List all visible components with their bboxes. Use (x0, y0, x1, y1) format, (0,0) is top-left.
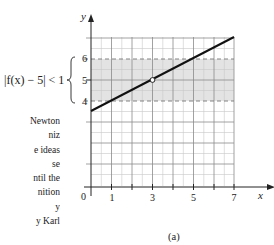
figure-caption: (a) (168, 231, 180, 243)
hole-point (150, 78, 155, 83)
origin-label: 0 (81, 191, 86, 202)
y-axis-label: y (80, 10, 86, 22)
brace-icon (67, 57, 75, 103)
limit-figure: 6 5 4 0 1 3 5 7 y x |f(x) − 5| < 1 (a) (0, 0, 274, 245)
x-tick-3: 3 (150, 192, 155, 203)
x-axis-arrow-icon (267, 184, 274, 190)
y-tick-5: 5 (82, 75, 87, 86)
x-tick-1: 1 (110, 192, 115, 203)
y-tick-6: 6 (82, 53, 87, 64)
x-axis-label: x (257, 189, 263, 201)
y-tick-4: 4 (82, 96, 88, 107)
x-tick-7: 7 (232, 192, 237, 203)
y-axis-arrow-icon (88, 14, 94, 22)
x-tick-5: 5 (191, 192, 196, 203)
inequality-label: |f(x) − 5| < 1 (4, 73, 64, 87)
